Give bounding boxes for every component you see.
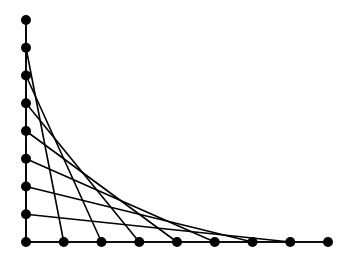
axis-point: [21, 209, 31, 219]
axis-point: [21, 154, 31, 164]
axis-point: [21, 71, 31, 81]
axis-point: [210, 237, 220, 247]
axis-point: [134, 237, 144, 247]
axis-point: [21, 15, 31, 25]
axis-point: [59, 237, 69, 247]
axis-point: [21, 182, 31, 192]
axis-point: [21, 237, 31, 247]
axis-point: [21, 43, 31, 53]
axes: [26, 20, 328, 242]
envelope-line: [26, 159, 215, 242]
axis-point: [172, 237, 182, 247]
envelope-lines: [26, 20, 328, 242]
envelope-line: [26, 131, 177, 242]
axis-point: [21, 126, 31, 136]
axis-point: [97, 237, 107, 247]
axis-points: [21, 15, 333, 247]
axis-point: [285, 237, 295, 247]
string-art-diagram: [0, 0, 352, 262]
axis-point: [323, 237, 333, 247]
axis-point: [248, 237, 258, 247]
axis-point: [21, 98, 31, 108]
